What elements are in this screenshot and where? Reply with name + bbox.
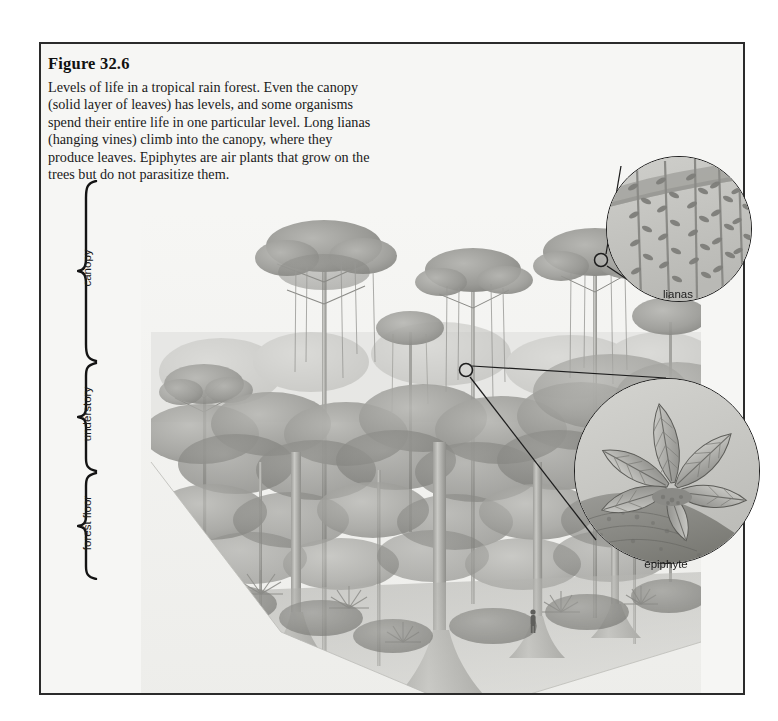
- level-understory: understory: [77, 362, 103, 472]
- level-label-forest-floor: forest floor: [81, 483, 93, 563]
- figure-caption-text: Levels of life in a tropical rain forest…: [48, 79, 378, 183]
- epiphyte-callout-circle: [574, 378, 760, 564]
- lianas-callout-circle: [606, 156, 752, 302]
- lianas-label: lianas: [628, 288, 728, 300]
- level-canopy: canopy: [77, 180, 103, 362]
- page-canvas: Figure 32.6 Levels of life in a tropical…: [0, 0, 778, 721]
- figure-box: Figure 32.6 Levels of life in a tropical…: [39, 42, 745, 695]
- level-label-canopy: canopy: [81, 238, 93, 298]
- epiphyte-label: epiphyte: [616, 558, 716, 570]
- level-forest-floor: forest floor: [77, 472, 103, 580]
- level-label-understory: understory: [81, 376, 93, 452]
- figure-title: Figure 32.6: [48, 54, 378, 74]
- figure-caption-block: Figure 32.6 Levels of life in a tropical…: [48, 54, 378, 183]
